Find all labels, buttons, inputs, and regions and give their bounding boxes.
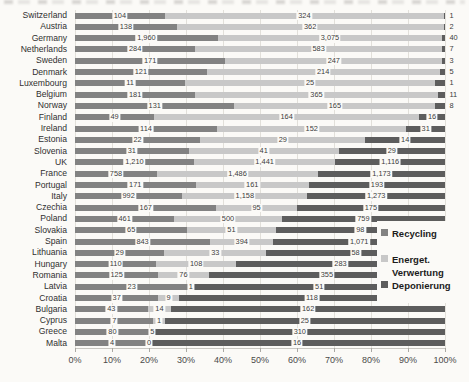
segment-value-label: 51: [226, 226, 237, 235]
segment-value-label: 7: [448, 45, 455, 54]
segment-value-label: 14: [154, 305, 165, 314]
bar-track: 314129: [75, 148, 445, 154]
stacked-bar-chart: SwitzerlandAustriaGermanyNetherlandsSwed…: [0, 0, 469, 382]
segment-value-label: 37: [111, 294, 122, 303]
bar-row-austria: 1383622: [75, 21, 445, 32]
bar-row-switzerland: 1043241: [75, 10, 445, 21]
segment-value-label: 7: [111, 317, 118, 326]
segment-value-label: 992: [121, 192, 136, 201]
x-tick-label: 70%: [325, 355, 343, 365]
segment-value-label: 43: [106, 305, 117, 314]
segment-value-label: 29: [386, 147, 397, 156]
segment-value-label: 11: [125, 79, 136, 88]
bar-row-portugal: 171161193: [75, 180, 445, 191]
bar-track: 11415231: [75, 126, 445, 132]
country-label-portugal: Portugal: [0, 180, 67, 191]
segment-value-label: 29: [277, 136, 288, 145]
country-label-czechia: Czechia: [0, 202, 67, 213]
bar-row-netherlands: 2845837: [75, 44, 445, 55]
segment-value-label: 125: [109, 271, 124, 280]
bar-track: 805310: [75, 329, 445, 335]
segment-deponierung: [444, 13, 445, 19]
segment-value-label: 11: [448, 91, 459, 100]
segment-deponierung: [435, 103, 445, 109]
x-tick-label: 100%: [433, 355, 456, 365]
country-label-finland: Finland: [0, 112, 67, 123]
segment-value-label: 65: [126, 226, 137, 235]
segment-value-label: 365: [309, 91, 324, 100]
segment-value-label: 3: [448, 57, 455, 66]
segment-value-label: 171: [142, 57, 157, 66]
country-label-france: France: [0, 168, 67, 179]
legend-entry-energet: Energet.Verwertung: [381, 253, 469, 279]
segment-value-label: 758: [108, 170, 123, 179]
segment-value-label: 49: [109, 113, 120, 122]
country-label-lithuania: Lithuania: [0, 247, 67, 258]
segment-value-label: 310: [292, 328, 307, 337]
segment-deponierung: [442, 58, 445, 64]
country-label-croatia: Croatia: [0, 293, 67, 304]
country-label-romania: Romania: [0, 270, 67, 281]
bar-track: 4016: [75, 340, 445, 346]
segment-value-label: 16: [426, 113, 437, 122]
bar-row-slovenia: 314129: [75, 146, 445, 157]
bar-track: 18136511: [75, 92, 445, 98]
segment-value-label: 1,210: [124, 158, 146, 167]
segment-value-label: 118: [304, 294, 319, 303]
bar-track: 7125: [75, 318, 445, 324]
bar-row-italy: 9921,1581,273: [75, 191, 445, 202]
segment-value-label: 165: [327, 102, 342, 111]
segment-value-label: 58: [350, 249, 361, 258]
bar-track: 2845837: [75, 46, 445, 52]
bar-row-greece: 805310: [75, 326, 445, 337]
segment-value-label: 31: [126, 147, 137, 156]
x-tick-label: 0%: [68, 355, 81, 365]
country-label-estonia: Estonia: [0, 134, 67, 145]
segment-value-label: 1,441: [254, 158, 276, 167]
segment-value-label: 16: [291, 339, 302, 348]
segment-value-label: 138: [118, 23, 133, 32]
segment-value-label: 31: [420, 125, 431, 134]
country-label-netherlands: Netherlands: [0, 44, 67, 55]
bar-track: 1212145: [75, 69, 445, 75]
bar-row-sweden: 1712473: [75, 55, 445, 66]
segment-value-label: 4: [108, 339, 115, 348]
country-label-sweden: Sweden: [0, 55, 67, 66]
segment-value-label: 362: [302, 23, 317, 32]
segment-value-label: 8: [448, 102, 455, 111]
segment-value-label: 5: [448, 68, 455, 77]
segment-value-label: 1,158: [234, 192, 256, 201]
bar-track: 16795175: [75, 205, 445, 211]
segment-deponierung: [440, 69, 445, 75]
segment-value-label: 41: [258, 147, 269, 156]
country-label-greece: Greece: [0, 326, 67, 337]
segment-value-label: 152: [304, 125, 319, 134]
deponierung-swatch-icon: [381, 281, 388, 288]
bar-track: 11251: [75, 80, 445, 86]
country-label-slovenia: Slovenia: [0, 146, 67, 157]
segment-value-label: 247: [326, 57, 341, 66]
segment-value-label: 583: [311, 45, 326, 54]
legend-label-recycling: Recycling: [392, 227, 437, 240]
x-tick-label: 50%: [251, 355, 269, 365]
segment-value-label: 162: [300, 305, 315, 314]
country-label-norway: Norway: [0, 100, 67, 111]
country-label-switzerland: Switzerland: [0, 10, 67, 21]
x-tick-label: 30%: [177, 355, 195, 365]
segment-value-label: 110: [108, 260, 123, 269]
segment-value-label: 22: [132, 136, 143, 145]
x-tick-label: 40%: [214, 355, 232, 365]
segment-deponierung: [442, 35, 445, 41]
bar-track: 1043241: [75, 13, 445, 19]
axis-tick: [445, 348, 446, 352]
segment-value-label: 161: [245, 181, 260, 190]
segment-value-label: 461: [117, 215, 132, 224]
segment-value-label: 108: [188, 260, 203, 269]
segment-value-label: 1,173: [371, 170, 393, 179]
segment-value-label: 843: [135, 238, 150, 247]
bar-track: 1712473: [75, 58, 445, 64]
country-label-hungary: Hungary: [0, 259, 67, 270]
segment-value-label: 131: [147, 102, 162, 111]
segment-value-label: 167: [138, 204, 153, 213]
segment-value-label: 40: [448, 34, 459, 43]
